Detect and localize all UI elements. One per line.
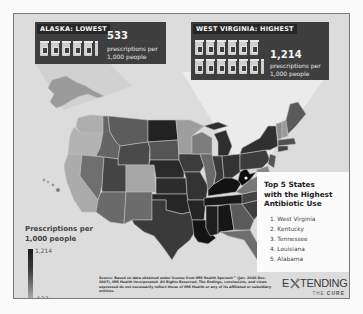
pill-bottle-icon (84, 43, 92, 56)
state-washington (76, 115, 103, 133)
state-maine (286, 102, 306, 134)
state-michigan (214, 130, 232, 156)
logo-subtitle: THE CURE (313, 290, 345, 296)
state-wyoming (118, 142, 150, 165)
source-note: Source: Based on data obtained under lic… (99, 276, 277, 294)
legend-gradient-bar (28, 249, 33, 299)
pill-bottle-icon (250, 42, 258, 55)
top5-item: 5. Alabama (264, 254, 342, 264)
pill-bottle-icon (217, 42, 225, 55)
extending-the-cure-logo: E TENDING THE CURE (282, 277, 347, 299)
pill-bottle-icon (206, 61, 214, 74)
state-kansas (156, 178, 187, 194)
highest-value: 1,214 (270, 49, 302, 60)
callout-highest-title: WEST VIRGINIA: HIGHEST (193, 24, 297, 34)
partial-pill-bottle-icon (261, 61, 264, 74)
state-massachusetts (278, 138, 296, 146)
lowest-value: 533 (107, 30, 128, 41)
state-colorado (126, 165, 156, 192)
pill-bottle-icon (217, 61, 225, 74)
state-new-mexico (124, 192, 152, 224)
state-arizona (96, 192, 126, 224)
state-connecticut (278, 146, 288, 152)
top5-item: 4. Louisiana (264, 244, 342, 254)
lowest-value-label: prescriptions per 1,000 people (107, 45, 158, 60)
top5-title: Top 5 States with the Highest Antibiotic… (264, 180, 342, 209)
pill-bottle-icon (228, 42, 236, 55)
state-ohio (222, 154, 240, 178)
legend-max-label: 1,214 (35, 247, 52, 254)
state-wisconsin (192, 132, 212, 154)
pill-bottle-icon (239, 42, 247, 55)
state-iowa (179, 154, 204, 172)
top5-item: 1. West Virginia (264, 214, 342, 224)
bottle-icons (195, 42, 264, 74)
state-alaska (48, 76, 104, 108)
callout-lowest: ALASKA: LOWEST 533 prescriptions per 1,0… (35, 22, 166, 64)
infographic-frame: ALASKA: LOWEST 533 prescriptions per 1,0… (13, 13, 350, 299)
callout-highest: WEST VIRGINIA: HIGHEST 1,214 p (191, 22, 329, 80)
pill-bottle-icon (195, 61, 203, 74)
top5-list: 1. West Virginia 2. Kentucky 3. Tennesse… (264, 214, 342, 264)
legend-title: Prescriptions per 1,000 people (25, 225, 93, 244)
pill-bottle-icon (40, 43, 48, 56)
state-new-jersey (268, 154, 276, 168)
pill-bottle-icon (239, 61, 247, 74)
state-new-york (240, 126, 278, 154)
top5-item: 2. Kentucky (264, 224, 342, 234)
state-hawaii (43, 179, 45, 181)
partial-pill-bottle-icon (95, 43, 98, 56)
pill-bottle-icon (195, 42, 203, 55)
pill-bottle-icon (206, 42, 214, 55)
state-south-dakota (148, 140, 179, 160)
state-mississippi (206, 206, 218, 236)
pill-bottle-icon (250, 61, 258, 74)
top5-item: 3. Tennessee (264, 234, 342, 244)
callout-lowest-title: ALASKA: LOWEST (37, 24, 110, 34)
state-missouri (184, 172, 208, 200)
pill-bottle-icon (228, 61, 236, 74)
pill-bottle-icon (51, 43, 59, 56)
pill-bottle-icon (62, 43, 70, 56)
x-leaf-icon (290, 278, 300, 289)
pill-bottle-icon (73, 43, 81, 56)
highest-value-label: prescriptions per 1,000 people (270, 62, 321, 77)
bottle-icons (40, 43, 98, 56)
legend-min-label: 533 (37, 295, 48, 299)
state-north-dakota (148, 120, 178, 142)
top5-panel: Top 5 States with the Highest Antibiotic… (257, 172, 349, 272)
